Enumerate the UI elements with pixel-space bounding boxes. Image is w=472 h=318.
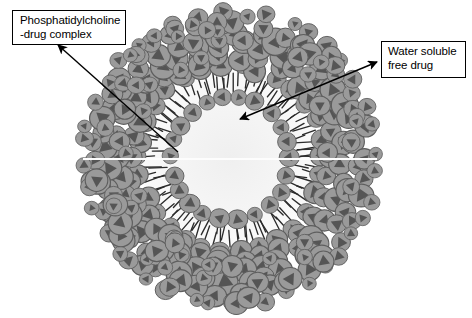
lipid-head-group [227,210,248,229]
lipid-head-group [106,198,122,214]
lipid-head-group [240,9,255,24]
lipid-head-group [349,114,363,128]
lipid-head-group [365,117,380,131]
lipid-head-group [263,105,280,122]
lipid-head-group [139,273,152,285]
lipid-head-group [245,92,264,110]
lipid-head-group [221,256,243,278]
lipid-head-group [183,33,203,52]
lipid-head-group [309,96,330,116]
lipid-head-group [313,55,329,70]
lipid-head-group [198,22,216,39]
lipid-head-group [185,17,200,31]
lipid-head-group [158,260,173,275]
lipid-head-group [85,169,108,192]
lipid-head-group [364,195,380,211]
lipid-head-group [237,287,260,308]
callout-phosphatidylcholine-drug-complex: Phosphatidylcholine -drug complex [12,10,126,45]
callout-water-soluble-free-drug: Water soluble free drug [381,41,466,78]
lipid-head-group [209,209,230,228]
lipid-head-group [88,94,104,110]
lipid-head-group [113,246,128,261]
lipid-head-group [127,77,145,94]
lipid-head-group [171,30,184,43]
lipid-head-group [165,233,184,253]
lipid-tail [238,71,239,86]
lipid-head-group [344,227,357,240]
lipid-head-group [247,207,262,222]
lipid-head-group [297,249,312,264]
lipid-head-group [367,164,382,178]
lipid-head-group [184,104,202,122]
lipid-head-group [277,167,294,184]
lipid-head-group [97,119,114,136]
lipid-head-group [300,67,316,82]
lipid-head-group [263,252,277,265]
lipid-head-group [302,277,316,290]
lipid-head-group [78,120,92,133]
lipid-head-group [343,178,360,195]
lipid-head-group [233,31,254,50]
lipid-head-group [214,89,232,106]
lipid-head-group [313,251,334,272]
lipid-head-group [288,47,308,67]
lipid-head-group [114,99,135,119]
lipid-head-group [355,210,370,225]
lipid-head-group [296,234,313,250]
lipid-head-group [199,95,215,110]
lipid-head-group [165,167,184,185]
lipid-head-group [231,90,247,106]
lipid-head-group [193,51,209,65]
lipid-head-group [123,48,137,62]
lipid-head-group [147,29,162,43]
lipid-head-group [344,70,362,88]
lipid-head-group [278,132,297,151]
lipid-head-group [342,133,360,151]
lipid-head-group [84,201,99,215]
lipid-head-group [202,258,216,271]
lipid-head-group [261,197,278,214]
lipid-head-group [190,293,204,306]
lipid-head-group [257,6,275,23]
lipid-head-group [279,267,303,289]
lipid-tail [149,167,167,168]
lipid-head-group [160,278,180,296]
lipid-head-group [173,62,189,78]
